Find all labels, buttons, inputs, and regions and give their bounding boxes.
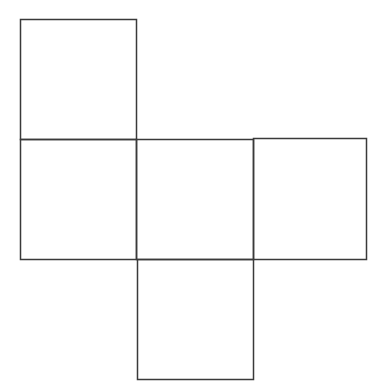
cube-face-center [137, 140, 254, 260]
cube-face-right [254, 139, 367, 260]
cube-net-faces [21, 20, 367, 380]
cube-face-left [21, 140, 137, 260]
cube-face-bottom [138, 260, 254, 380]
cube-face-top [21, 20, 137, 140]
cube-net-diagram [0, 0, 381, 390]
